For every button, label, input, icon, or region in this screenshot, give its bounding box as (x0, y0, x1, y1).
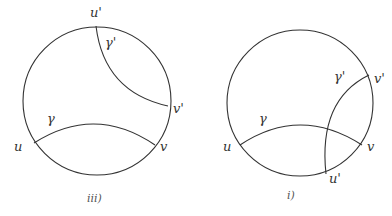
geodesic-gamma-right (240, 125, 362, 145)
label-u-right: u (223, 140, 231, 153)
label-gamma-prime-left: γ' (105, 36, 116, 49)
disk-boundary-left (23, 27, 171, 175)
label-v-prime-left: v' (173, 102, 184, 115)
geodesic-gamma-left (34, 124, 155, 145)
label-gamma-prime-right: γ' (334, 70, 345, 83)
label-v-right: v (367, 140, 374, 153)
label-u-prime-right: u' (329, 172, 341, 185)
caption-i: i) (287, 190, 295, 201)
label-u-prime-left: u' (90, 6, 102, 19)
label-u-left: u (14, 140, 22, 153)
label-v-prime-right: v' (374, 72, 385, 85)
label-gamma-right: γ (259, 112, 267, 125)
label-gamma-left: γ (47, 112, 55, 125)
figure-i (227, 30, 373, 176)
figure-iii (23, 26, 171, 175)
label-v-left: v (160, 140, 167, 153)
disk-boundary-right (227, 30, 373, 176)
caption-iii: iii) (87, 193, 102, 204)
